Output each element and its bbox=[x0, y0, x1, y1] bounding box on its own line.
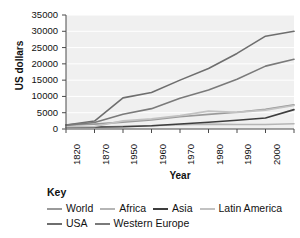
legend-line-swatch bbox=[47, 223, 62, 225]
legend-row: WorldAfricaAsiaLatin America bbox=[47, 201, 300, 216]
line-chart-figure: US dollars 05000100001500020000250003000… bbox=[0, 0, 300, 238]
x-axis-title: Year bbox=[66, 170, 294, 181]
legend-line-swatch bbox=[100, 208, 115, 210]
legend-entry: Western Europe bbox=[95, 217, 190, 230]
legend-label: World bbox=[66, 202, 93, 215]
chart-canvas bbox=[0, 0, 300, 186]
legend-title: Key bbox=[47, 186, 300, 198]
legend-line-swatch bbox=[153, 208, 168, 210]
legend-entry: USA bbox=[47, 217, 88, 230]
legend-label: USA bbox=[66, 217, 88, 230]
legend-label: Africa bbox=[119, 202, 146, 215]
legend-entry: Latin America bbox=[200, 202, 283, 215]
legend-line-swatch bbox=[47, 208, 62, 210]
plot-background bbox=[66, 15, 294, 129]
legend-label: Asia bbox=[172, 202, 192, 215]
chart-legend: Key WorldAfricaAsiaLatin AmericaUSAWeste… bbox=[47, 186, 300, 238]
legend-line-swatch bbox=[95, 223, 110, 225]
legend-label: Latin America bbox=[219, 202, 283, 215]
legend-rows: WorldAfricaAsiaLatin AmericaUSAWestern E… bbox=[47, 201, 300, 231]
legend-entry: World bbox=[47, 202, 93, 215]
legend-label: Western Europe bbox=[114, 217, 190, 230]
legend-entry: Africa bbox=[100, 202, 146, 215]
x-tick-mark-group bbox=[66, 129, 294, 133]
y-tick-mark-group bbox=[62, 15, 66, 129]
legend-line-swatch bbox=[200, 208, 215, 210]
legend-entry: Asia bbox=[153, 202, 192, 215]
chart-plot-region: US dollars 05000100001500020000250003000… bbox=[0, 0, 300, 186]
legend-row: USAWestern Europe bbox=[47, 216, 300, 231]
